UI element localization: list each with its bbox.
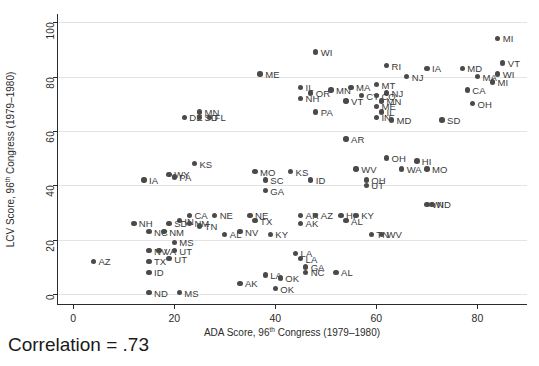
- data-point[interactable]: [298, 96, 303, 101]
- data-point[interactable]: [308, 177, 313, 182]
- data-point-label: KY: [361, 210, 374, 221]
- data-point[interactable]: [222, 232, 227, 237]
- data-point-label: HI: [422, 155, 432, 166]
- data-point[interactable]: [439, 117, 444, 122]
- data-point[interactable]: [384, 155, 389, 160]
- data-point[interactable]: [500, 60, 505, 65]
- data-point[interactable]: [268, 232, 273, 237]
- correlation-annotation: Correlation = .73: [8, 334, 149, 356]
- data-point[interactable]: [424, 66, 429, 71]
- data-point[interactable]: [166, 256, 171, 261]
- data-point[interactable]: [293, 251, 298, 256]
- data-point[interactable]: [298, 221, 303, 226]
- data-point[interactable]: [263, 272, 268, 277]
- data-point[interactable]: [192, 161, 197, 166]
- data-point-label: MI: [503, 33, 514, 44]
- data-point[interactable]: [146, 248, 151, 253]
- data-point[interactable]: [257, 71, 262, 76]
- data-point[interactable]: [146, 259, 151, 264]
- data-point[interactable]: [182, 115, 187, 120]
- data-point[interactable]: [369, 232, 374, 237]
- data-point[interactable]: [197, 223, 202, 228]
- data-point-label: MO: [432, 164, 448, 175]
- data-point[interactable]: [197, 109, 202, 114]
- data-point-label: AL: [341, 267, 353, 278]
- y-axis-tick-label: 20: [46, 240, 57, 252]
- data-point-label: WV: [361, 164, 377, 175]
- data-point-label: AR: [351, 134, 364, 145]
- data-point-label: NM: [169, 226, 184, 237]
- data-point[interactable]: [273, 286, 278, 291]
- data-point[interactable]: [429, 202, 434, 207]
- data-point[interactable]: [91, 259, 96, 264]
- data-point[interactable]: [364, 177, 369, 182]
- data-point[interactable]: [470, 101, 475, 106]
- data-point[interactable]: [495, 36, 500, 41]
- data-point[interactable]: [303, 270, 308, 275]
- data-point-label: AK: [245, 278, 258, 289]
- data-point-label: WA: [407, 164, 422, 175]
- data-point[interactable]: [465, 87, 470, 92]
- data-point[interactable]: [379, 232, 384, 237]
- data-point-label: AL: [230, 229, 242, 240]
- gridline: [58, 185, 527, 186]
- data-point[interactable]: [172, 174, 177, 179]
- data-point[interactable]: [333, 270, 338, 275]
- data-point[interactable]: [343, 136, 348, 141]
- data-point[interactable]: [298, 213, 303, 218]
- data-point[interactable]: [288, 169, 293, 174]
- x-axis-tick: [376, 304, 377, 309]
- data-point[interactable]: [399, 166, 404, 171]
- data-point[interactable]: [374, 115, 379, 120]
- data-point[interactable]: [161, 229, 166, 234]
- data-point[interactable]: [252, 218, 257, 223]
- y-axis-tick-label: 0: [46, 294, 57, 300]
- data-point[interactable]: [343, 218, 348, 223]
- data-point[interactable]: [338, 213, 343, 218]
- data-point[interactable]: [404, 74, 409, 79]
- data-point-label: PA: [321, 106, 333, 117]
- data-point-label: AL: [351, 215, 363, 226]
- x-axis-tick: [174, 304, 175, 309]
- plot-area: 020406080100 020406080 MIWIVTWIRIIAMDNJM…: [57, 14, 527, 305]
- data-point[interactable]: [146, 270, 151, 275]
- data-point[interactable]: [475, 74, 480, 79]
- data-point[interactable]: [156, 248, 161, 253]
- data-point[interactable]: [212, 213, 217, 218]
- data-point[interactable]: [384, 63, 389, 68]
- data-point[interactable]: [263, 188, 268, 193]
- data-point[interactable]: [460, 66, 465, 71]
- data-point-label: NV: [245, 226, 258, 237]
- data-point[interactable]: [313, 49, 318, 54]
- x-axis-tick-label: 20: [168, 312, 180, 324]
- data-point[interactable]: [328, 87, 333, 92]
- data-point-label: UT: [174, 253, 187, 264]
- data-point[interactable]: [424, 166, 429, 171]
- data-point[interactable]: [131, 221, 136, 226]
- data-point-label: OH: [391, 153, 405, 164]
- data-point[interactable]: [252, 169, 257, 174]
- x-axis-tick: [477, 304, 478, 309]
- data-point[interactable]: [353, 166, 358, 171]
- data-point[interactable]: [348, 85, 353, 90]
- x-axis-tick-label: 60: [371, 312, 383, 324]
- data-point[interactable]: [313, 109, 318, 114]
- data-point[interactable]: [343, 98, 348, 103]
- data-point[interactable]: [389, 117, 394, 122]
- data-point[interactable]: [263, 177, 268, 182]
- data-point[interactable]: [146, 229, 151, 234]
- data-point[interactable]: [247, 213, 252, 218]
- data-point[interactable]: [141, 177, 146, 182]
- data-point[interactable]: [374, 82, 379, 87]
- data-point[interactable]: [298, 85, 303, 90]
- data-point[interactable]: [298, 256, 303, 261]
- data-point-label: TX: [154, 256, 166, 267]
- data-point[interactable]: [237, 281, 242, 286]
- data-point[interactable]: [364, 183, 369, 188]
- data-point-label: GA: [270, 185, 284, 196]
- x-axis-tick: [275, 304, 276, 309]
- data-point[interactable]: [374, 104, 379, 109]
- data-point[interactable]: [303, 264, 308, 269]
- data-point[interactable]: [490, 79, 495, 84]
- data-point[interactable]: [278, 275, 283, 280]
